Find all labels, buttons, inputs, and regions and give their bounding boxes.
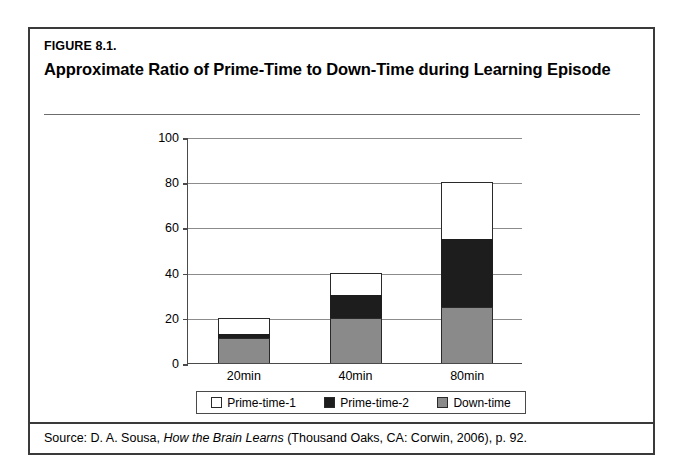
y-axis-tick-mark [183,228,188,230]
legend-swatch-icon [324,397,335,408]
legend-item[interactable]: Prime-time-1 [211,396,296,410]
source-prefix: Source: D. A. Sousa, [44,431,164,445]
figure-frame: FIGURE 8.1. Approximate Ratio of Prime-T… [28,27,655,455]
x-axis-tick-label: 80min [441,369,493,383]
y-axis-tick-label: 100 [158,131,179,145]
x-axis-tick-label: 40min [330,369,382,383]
gridline [188,138,522,139]
y-axis-tick-label: 60 [165,221,179,235]
y-axis-tick-label: 0 [172,357,179,371]
legend-item[interactable]: Down-time [437,396,510,410]
source-divider [30,422,653,424]
y-axis-tick-label: 40 [165,267,179,281]
figure-title: Approximate Ratio of Prime-Time to Down-… [44,59,624,80]
legend-label: Down-time [453,396,510,410]
source-citation: Source: D. A. Sousa, How the Brain Learn… [44,431,527,445]
legend-swatch-icon [211,397,222,408]
chart-region: 02040608010020min40min80min Length of Le… [30,124,653,374]
bar-segment-down-time[interactable] [330,318,382,363]
bar-segment-prime-time-1[interactable] [218,318,270,334]
legend-item[interactable]: Prime-time-2 [324,396,409,410]
bar-segment-prime-time-1[interactable] [330,273,382,296]
bar-segment-down-time[interactable] [441,307,493,364]
y-axis-tick-mark [183,183,188,185]
chart-legend: Prime-time-1Prime-time-2Down-time [196,391,526,414]
y-axis-tick-mark [183,274,188,276]
y-axis-tick-label: 80 [165,176,179,190]
x-axis-tick-label: 20min [218,369,270,383]
bar-segment-prime-time-2[interactable] [330,295,382,318]
y-axis-tick-mark [183,364,188,366]
y-axis-tick-mark [183,319,188,321]
legend-label: Prime-time-2 [340,396,409,410]
figure-label: FIGURE 8.1. [44,39,117,53]
plot-area: 02040608010020min40min80min [187,138,522,364]
y-axis-tick-label: 20 [165,312,179,326]
legend-label: Prime-time-1 [227,396,296,410]
bar-segment-prime-time-2[interactable] [441,239,493,307]
bar-group[interactable]: 40min [330,273,382,363]
bar-segment-down-time[interactable] [218,338,270,363]
bar-segment-prime-time-1[interactable] [441,182,493,239]
source-book-title: How the Brain Learns [164,431,284,445]
y-axis-tick-mark [183,138,188,140]
title-divider [44,114,640,115]
bar-group[interactable]: 20min [218,318,270,363]
source-suffix: (Thousand Oaks, CA: Corwin, 2006), p. 92… [284,431,527,445]
bar-group[interactable]: 80min [441,182,493,363]
legend-swatch-icon [437,397,448,408]
